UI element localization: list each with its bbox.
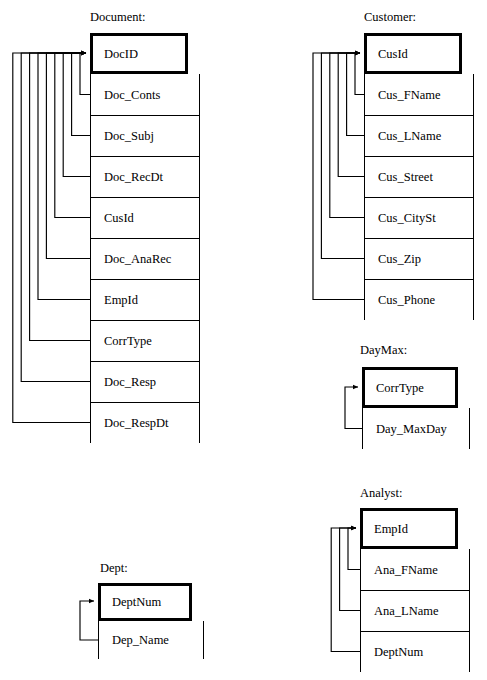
primary-key-box-analyst[interactable]: EmpId bbox=[360, 508, 458, 549]
primary-key-label: DocID bbox=[93, 47, 138, 61]
attribute-label: Cus_Zip bbox=[365, 252, 421, 266]
attribute-label: Doc_RecDt bbox=[91, 170, 163, 184]
attribute-label: Ana_FName bbox=[361, 563, 438, 577]
attribute-label: Doc_Subj bbox=[91, 129, 154, 143]
dependency-arrow bbox=[347, 53, 364, 136]
primary-key-box-document[interactable]: DocID bbox=[90, 33, 188, 74]
entity-title-document: Document: bbox=[90, 10, 146, 24]
attribute-row[interactable]: Dep_Name bbox=[99, 621, 203, 659]
attribute-label: Ana_LName bbox=[361, 604, 439, 618]
attribute-row[interactable]: EmpId bbox=[91, 279, 199, 320]
dependency-arrow bbox=[38, 53, 90, 300]
dependency-arrow bbox=[30, 53, 90, 341]
primary-key-label: CorrType bbox=[365, 381, 424, 395]
attribute-label: Cus_Phone bbox=[365, 293, 435, 307]
dependency-arrow bbox=[331, 528, 360, 652]
attribute-label: Cus_LName bbox=[365, 129, 441, 143]
attribute-row[interactable]: Doc_AnaRec bbox=[91, 238, 199, 279]
entity-title-customer: Customer: bbox=[364, 10, 416, 24]
primary-key-box-daymax[interactable]: CorrType bbox=[362, 367, 458, 408]
dependency-arrow bbox=[63, 53, 90, 177]
primary-key-label: EmpId bbox=[363, 522, 408, 536]
dependency-arrow bbox=[72, 53, 90, 136]
attribute-row[interactable]: Day_MaxDay bbox=[363, 408, 469, 449]
dependency-arrow bbox=[338, 53, 364, 177]
attribute-label: Doc_RespDt bbox=[91, 416, 169, 430]
dependency-arrow bbox=[46, 53, 90, 259]
attribute-row[interactable]: Cus_Street bbox=[365, 156, 473, 197]
attribute-row[interactable]: CorrType bbox=[91, 320, 199, 361]
attribute-row[interactable]: Ana_FName bbox=[361, 549, 469, 590]
attribute-row[interactable]: Doc_RecDt bbox=[91, 156, 199, 197]
entity-title-daymax: DayMax: bbox=[360, 343, 407, 357]
dependency-arrow bbox=[348, 528, 360, 570]
primary-key-box-dept[interactable]: DeptNum bbox=[98, 583, 192, 621]
attribute-label: Day_MaxDay bbox=[363, 422, 447, 436]
entity-title-dept: Dept: bbox=[100, 561, 128, 575]
attribute-label: Doc_AnaRec bbox=[91, 252, 171, 266]
dependency-arrow bbox=[21, 53, 90, 382]
primary-key-label: DeptNum bbox=[101, 595, 161, 609]
schema-diagram: Document:Doc_ContsDoc_SubjDoc_RecDtCusId… bbox=[0, 0, 487, 680]
primary-key-label: CusId bbox=[367, 47, 408, 61]
attribute-label: Cus_CitySt bbox=[365, 211, 436, 225]
attribute-label: Dep_Name bbox=[99, 633, 169, 647]
attribute-list-analyst: Ana_FNameAna_LNameDeptNum bbox=[360, 549, 470, 672]
dependency-arrow bbox=[340, 528, 360, 611]
dependency-arrow bbox=[330, 53, 364, 218]
attribute-label: EmpId bbox=[91, 293, 138, 307]
attribute-row[interactable]: CusId bbox=[91, 197, 199, 238]
dependency-arrow bbox=[80, 53, 90, 95]
dependency-arrow bbox=[355, 53, 364, 95]
attribute-label: Doc_Resp bbox=[91, 375, 156, 389]
attribute-row[interactable]: Ana_LName bbox=[361, 590, 469, 631]
attribute-row[interactable]: Doc_Conts bbox=[91, 74, 199, 115]
attribute-label: DeptNum bbox=[361, 645, 423, 659]
attribute-list-document: Doc_ContsDoc_SubjDoc_RecDtCusIdDoc_AnaRe… bbox=[90, 74, 200, 443]
primary-key-box-customer[interactable]: CusId bbox=[364, 33, 462, 74]
attribute-label: Cus_FName bbox=[365, 88, 441, 102]
attribute-row[interactable]: Cus_Phone bbox=[365, 279, 473, 320]
dependency-arrow bbox=[13, 53, 90, 423]
attribute-row[interactable]: Doc_Subj bbox=[91, 115, 199, 156]
attribute-label: Cus_Street bbox=[365, 170, 433, 184]
attribute-row[interactable]: Cus_FName bbox=[365, 74, 473, 115]
entity-title-analyst: Analyst: bbox=[360, 486, 402, 500]
attribute-list-customer: Cus_FNameCus_LNameCus_StreetCus_CityStCu… bbox=[364, 74, 474, 320]
dependency-arrow bbox=[55, 53, 90, 218]
dependency-arrow bbox=[313, 53, 364, 300]
attribute-list-dept: Dep_Name bbox=[98, 621, 204, 659]
attribute-row[interactable]: Doc_RespDt bbox=[91, 402, 199, 443]
attribute-row[interactable]: Doc_Resp bbox=[91, 361, 199, 402]
attribute-label: Doc_Conts bbox=[91, 88, 160, 102]
attribute-row[interactable]: Cus_LName bbox=[365, 115, 473, 156]
dependency-arrow bbox=[321, 53, 364, 259]
attribute-row[interactable]: Cus_CitySt bbox=[365, 197, 473, 238]
attribute-label: CusId bbox=[91, 211, 134, 225]
attribute-row[interactable]: DeptNum bbox=[361, 631, 469, 672]
attribute-list-daymax: Day_MaxDay bbox=[362, 408, 470, 449]
attribute-label: CorrType bbox=[91, 334, 152, 348]
attribute-row[interactable]: Cus_Zip bbox=[365, 238, 473, 279]
dependency-arrow bbox=[80, 601, 98, 640]
dependency-arrow bbox=[345, 387, 362, 429]
